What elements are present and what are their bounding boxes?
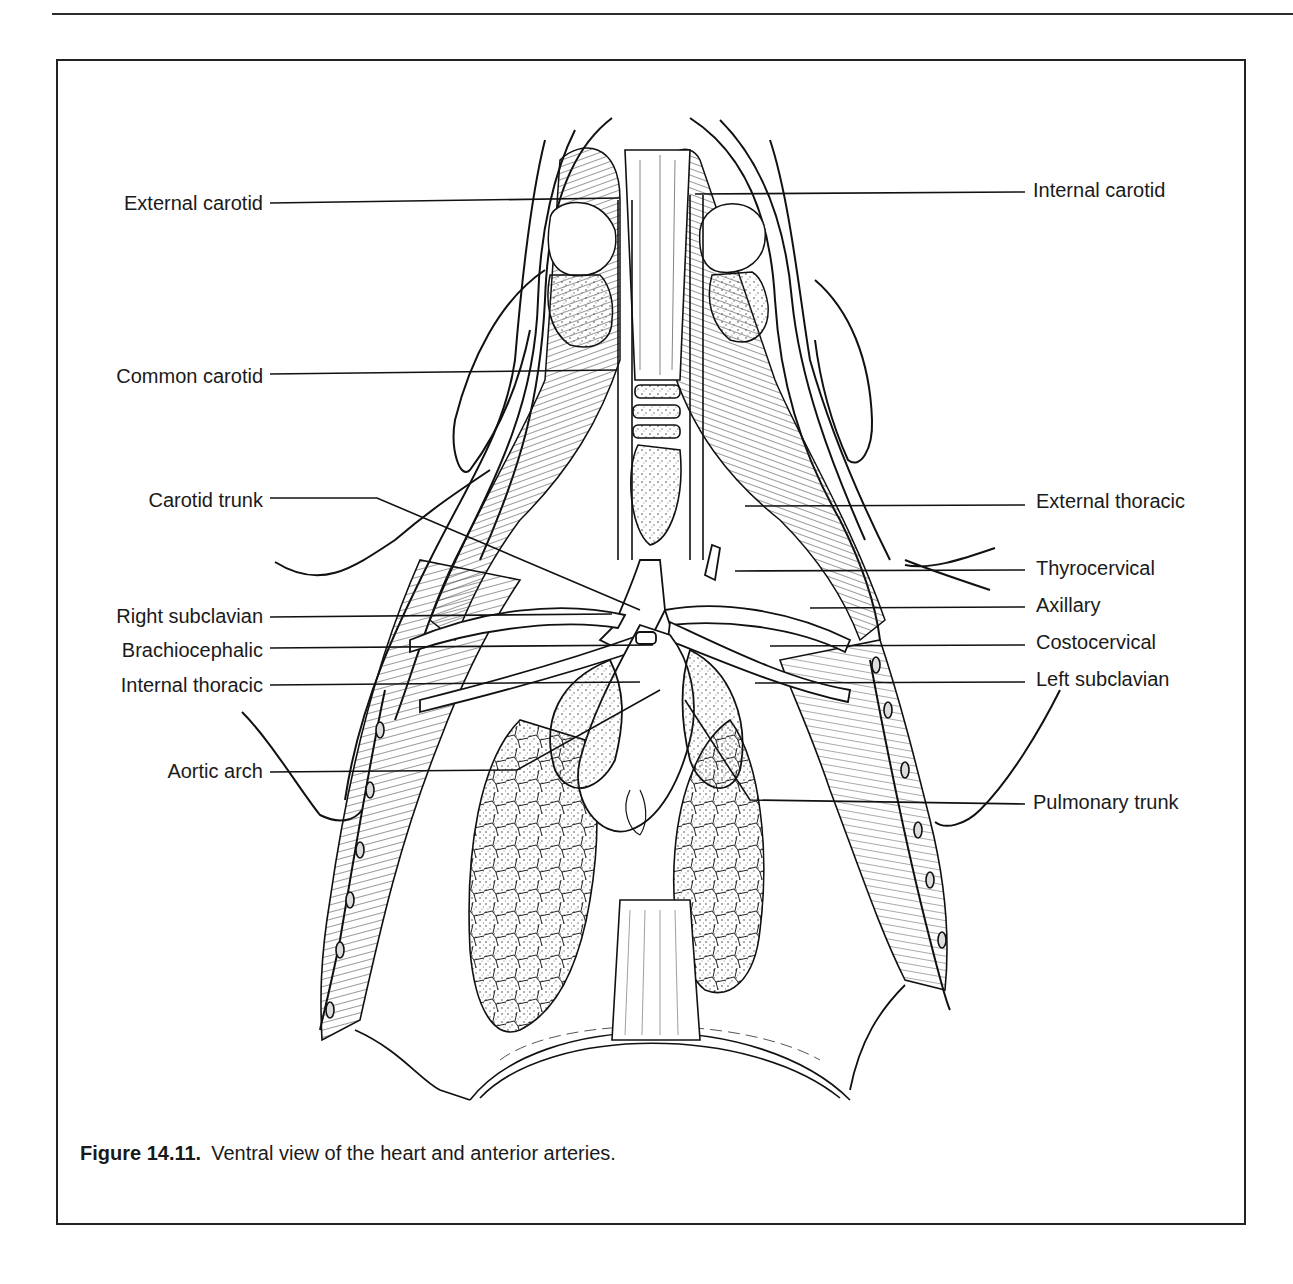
label-costocervical: Costocervical [1036,630,1156,654]
label-pulmonary-trunk: Pulmonary trunk [1033,790,1179,814]
label-aortic-arch: Aortic arch [60,759,263,783]
label-thyrocervical: Thyrocervical [1036,556,1155,580]
label-axillary: Axillary [1036,593,1100,617]
label-internal-carotid: Internal carotid [1033,178,1165,202]
label-common-carotid: Common carotid [60,364,263,388]
label-brachiocephalic: Brachiocephalic [60,638,263,662]
label-right-subclavian: Right subclavian [60,604,263,628]
label-external-carotid: External carotid [60,191,263,215]
figure-caption: Figure 14.11.Ventral view of the heart a… [80,1140,616,1166]
label-carotid-trunk: Carotid trunk [60,488,263,512]
figure-caption-text: Ventral view of the heart and anterior a… [211,1142,616,1164]
label-internal-thoracic: Internal thoracic [60,673,263,697]
trachea [618,150,703,560]
label-external-thoracic: External thoracic [1036,489,1185,513]
label-left-subclavian: Left subclavian [1036,667,1169,691]
figure-number: Figure 14.11. [80,1142,201,1164]
